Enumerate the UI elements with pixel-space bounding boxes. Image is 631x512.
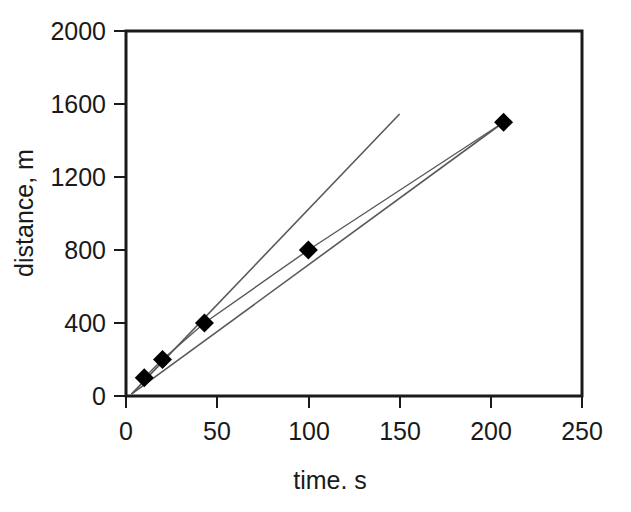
y-tick-label-0: 0 bbox=[92, 382, 106, 410]
y-tick-label-800: 800 bbox=[64, 236, 106, 264]
x-tick-label-250: 250 bbox=[561, 417, 603, 445]
x-axis-title: time. s bbox=[293, 466, 367, 494]
x-axis-ticks bbox=[126, 396, 582, 408]
y-tick-label-1600: 1600 bbox=[50, 90, 106, 118]
x-tick-label-150: 150 bbox=[379, 417, 421, 445]
y-tick-label-2000: 2000 bbox=[50, 17, 106, 45]
x-tick-label-200: 200 bbox=[470, 417, 512, 445]
chart-figure: 2000 1600 1200 800 400 0 0 50 100 150 20… bbox=[0, 0, 631, 512]
x-tick-label-0: 0 bbox=[119, 417, 133, 445]
y-tick-label-1200: 1200 bbox=[50, 163, 106, 191]
y-axis-title: distance, m bbox=[10, 149, 38, 277]
chart-canvas: 2000 1600 1200 800 400 0 0 50 100 150 20… bbox=[0, 0, 631, 512]
y-tick-label-400: 400 bbox=[64, 309, 106, 337]
x-tick-label-100: 100 bbox=[288, 417, 330, 445]
y-axis-ticks bbox=[114, 31, 126, 396]
x-tick-label-50: 50 bbox=[203, 417, 231, 445]
plot-frame bbox=[126, 31, 582, 396]
